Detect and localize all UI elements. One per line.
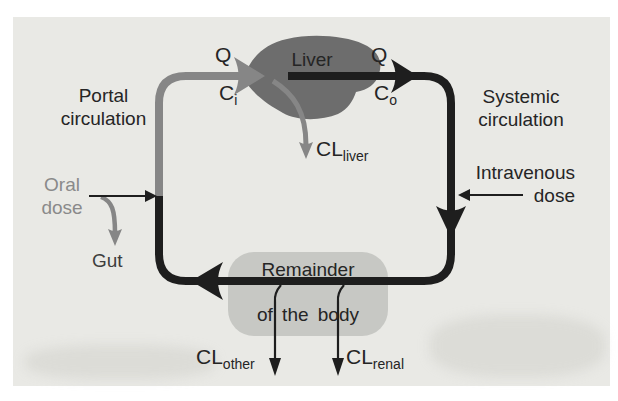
q-out-label: Q	[371, 44, 387, 66]
systemic-down-arrowhead-icon	[436, 206, 466, 238]
cl-other-arrowhead-icon	[269, 358, 281, 376]
cl-renal-label: CLrenal	[346, 346, 404, 368]
portal-circulation-label: Portal circulation	[36, 84, 171, 130]
remainder-label-line2: of the body	[228, 303, 388, 326]
oral-dose-label: Oral dose	[30, 173, 94, 219]
liver-label: Liver	[280, 48, 344, 71]
ci-label: Ci	[219, 82, 237, 104]
gut-arrow	[101, 197, 115, 233]
cl-liver-label: CLliver	[316, 138, 369, 160]
systemic-circulation-label: Systemic circulation	[456, 85, 586, 131]
cl-renal-arrowhead-icon	[332, 358, 344, 376]
co-label: Co	[374, 82, 397, 104]
cl-other-label: CLother	[196, 346, 255, 368]
iv-dose-label: Intravenous dose	[449, 161, 575, 207]
figure-scan: Portal circulation Systemic circulation …	[0, 0, 618, 401]
cl-liver-arrowhead-icon	[299, 142, 313, 159]
gut-arrowhead-icon	[108, 229, 122, 246]
remainder-label-line1: Remainder	[228, 258, 388, 281]
gut-label: Gut	[92, 249, 123, 272]
q-in-label: Q	[215, 44, 231, 66]
